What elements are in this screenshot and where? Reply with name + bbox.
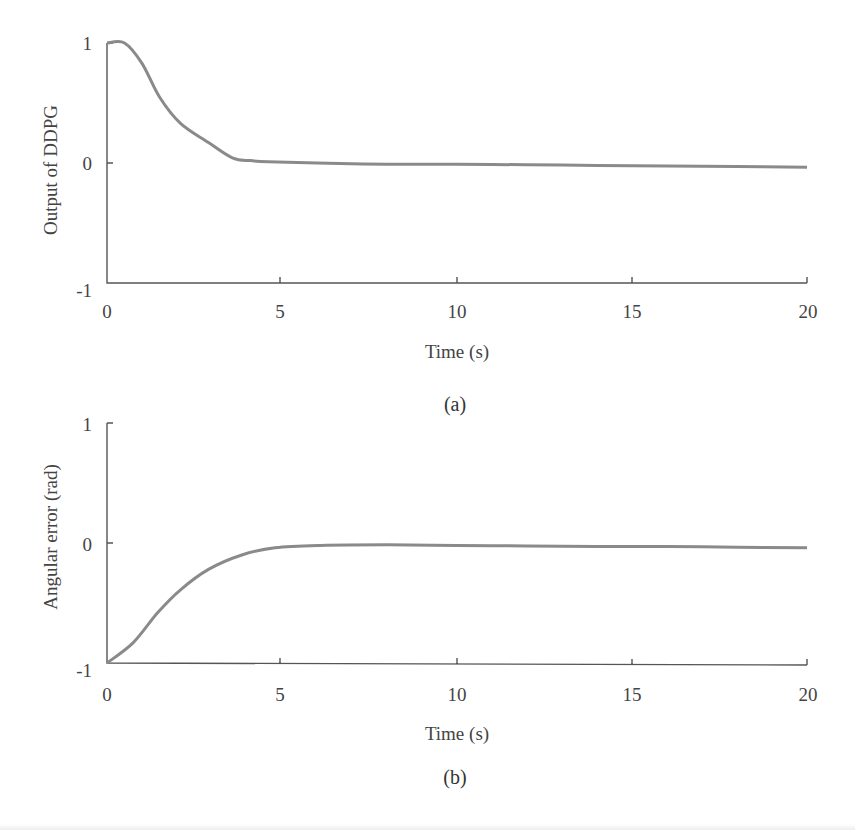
panel-a-ytick-1: 1 [83,33,93,54]
panel-a-xtick-0: 0 [102,301,112,322]
panel-a-xlabel: Time (s) [425,341,489,363]
panel-b-xtick-15: 15 [623,684,642,705]
panel-b-ytick-neg1: -1 [76,660,92,681]
panel-b-ytick-1: 1 [83,414,93,435]
panel-a-xtick-20: 20 [799,301,818,322]
panel-a-ylabel: Output of DDPG [40,105,61,235]
panel-a-caption: (a) [444,393,466,416]
panel-a-xtick-15: 15 [623,301,642,322]
panel-b-ytick-0: 0 [83,534,93,555]
panel-b-xtick-20: 20 [799,684,818,705]
panel-b: 1 0 -1 0 5 10 15 20 Time (s) Angular err… [40,414,818,789]
panel-b-xtick-0: 0 [102,684,112,705]
panel-a-ytick-0: 0 [83,153,93,174]
panel-a-xtick-5: 5 [275,301,285,322]
panel-a: 1 0 -1 0 5 10 15 20 Time (s) Output of D… [40,33,818,416]
panel-b-xtick-5: 5 [275,684,285,705]
cutoff-caption-text [0,824,855,830]
panel-b-caption: (b) [443,766,466,789]
figure: 1 0 -1 0 5 10 15 20 Time (s) Output of D… [0,0,855,830]
panel-a-curve [107,41,807,167]
panel-b-ylabel: Angular error (rad) [40,464,62,610]
panel-b-xtick-10: 10 [448,684,467,705]
panel-b-curve [107,545,807,663]
panel-b-xlabel: Time (s) [425,723,489,745]
panel-a-xtick-10: 10 [448,301,467,322]
panel-a-ytick-neg1: -1 [76,280,92,301]
